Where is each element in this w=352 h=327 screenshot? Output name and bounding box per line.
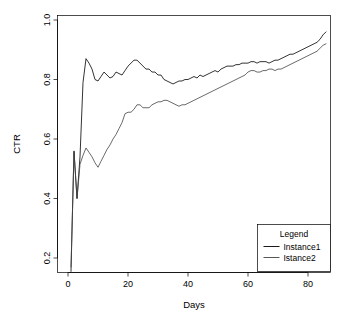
y-tick-label: 0.2 — [42, 252, 52, 265]
legend-label-0: Instance1 — [284, 242, 321, 252]
legend-label-1: Istance2 — [284, 253, 316, 263]
legend-title: Legend — [280, 229, 309, 239]
y-axis-title: CTR — [11, 134, 22, 154]
x-tick-label: 80 — [303, 279, 313, 289]
y-tick-label: 1.0 — [42, 14, 52, 27]
y-tick-label: 0.6 — [42, 133, 52, 146]
y-tick-label: 0.4 — [42, 192, 52, 205]
x-tick-label: 20 — [123, 279, 133, 289]
chart-container: 0.20.40.60.81.0020406080DaysCTRLegendIns… — [0, 0, 352, 327]
x-tick-label: 40 — [183, 279, 193, 289]
ctr-line-chart: 0.20.40.60.81.0020406080DaysCTRLegendIns… — [0, 0, 352, 327]
x-axis-title: Days — [183, 299, 205, 310]
x-tick-label: 60 — [243, 279, 253, 289]
x-tick-label: 0 — [65, 279, 70, 289]
y-tick-label: 0.8 — [42, 73, 52, 86]
